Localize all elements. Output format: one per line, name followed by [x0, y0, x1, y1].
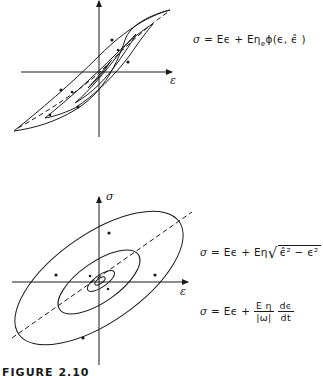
top-hysteresis-plot	[14, 1, 172, 137]
equation-phi-term: ϕ(ϵ, ϵ̂ )	[265, 33, 305, 45]
sqrt-icon: √	[268, 244, 278, 262]
top-x-axis-label: ε	[170, 74, 176, 87]
bottom-y-axis-label: σ	[106, 190, 114, 203]
bottom-large-ellipse	[0, 186, 205, 371]
bottom-ellipse-plot	[0, 186, 205, 371]
fraction-numerator: E η	[254, 300, 274, 311]
equation-rhs: = Eϵ +	[211, 305, 250, 317]
bottom-elastic-line	[12, 212, 192, 338]
bottom-equation-1: σ = Eϵ + Eη√ϵ̂² − ϵ²	[200, 244, 321, 262]
equation-rhs: = Eϵ + Eη	[211, 246, 268, 258]
top-backbone-curve	[18, 12, 168, 128]
fraction-numerator: dϵ	[278, 300, 294, 312]
top-equation: σ = Eϵ + Eηeϕ(ϵ, ϵ̂ )	[193, 33, 306, 48]
fraction-denominator: dt	[278, 312, 294, 323]
sigma-symbol: σ	[200, 305, 207, 317]
equation-rhs: = Eϵ + Eη	[204, 33, 261, 45]
bottom-x-axis-label: ε	[180, 285, 186, 298]
bottom-small-ellipse	[84, 267, 117, 295]
sigma-symbol: σ	[200, 246, 207, 258]
sigma-symbol: σ	[193, 33, 200, 45]
fraction-de-dt: dϵ dt	[278, 300, 294, 323]
bottom-equation-2: σ = Eϵ + E η |ω| dϵ dt	[200, 300, 294, 323]
figure-caption: FIGURE 2.10	[2, 366, 90, 376]
sqrt-content: ϵ̂² − ϵ²	[278, 245, 321, 258]
fraction-e-eta-omega: E η |ω|	[254, 300, 274, 323]
fraction-denominator: |ω|	[254, 311, 274, 323]
